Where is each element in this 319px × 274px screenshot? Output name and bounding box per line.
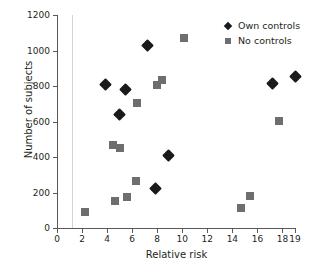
data-point bbox=[99, 78, 112, 91]
data-point bbox=[132, 177, 140, 185]
diamond-marker-icon bbox=[222, 23, 234, 29]
data-point bbox=[180, 34, 188, 42]
data-point bbox=[275, 117, 283, 125]
data-point bbox=[116, 144, 124, 152]
x-tick-label: 2 bbox=[72, 234, 92, 244]
x-tick-label: 4 bbox=[97, 234, 117, 244]
data-point bbox=[81, 208, 89, 216]
x-tick-label: 14 bbox=[222, 234, 242, 244]
data-point bbox=[133, 99, 141, 107]
y-tick-label: 1200 bbox=[16, 10, 50, 20]
data-point bbox=[162, 149, 175, 162]
data-point bbox=[289, 70, 302, 83]
x-tick bbox=[282, 229, 283, 233]
x-tick bbox=[82, 229, 83, 233]
x-tick-label: 12 bbox=[197, 234, 217, 244]
legend-label: No controls bbox=[238, 35, 292, 46]
x-tick bbox=[257, 229, 258, 233]
x-tick bbox=[232, 229, 233, 233]
x-tick bbox=[207, 229, 208, 233]
data-point bbox=[113, 108, 126, 121]
chart-legend: Own controls No controls bbox=[222, 19, 300, 49]
x-tick bbox=[157, 229, 158, 233]
data-point bbox=[141, 39, 154, 52]
y-tick-label: 0 bbox=[16, 223, 50, 233]
data-point bbox=[123, 193, 131, 201]
x-tick bbox=[57, 229, 58, 233]
x-tick bbox=[295, 229, 296, 233]
scatter-plot-figure: 020040060080010001200 02468101214161819 … bbox=[0, 0, 319, 274]
x-axis-line bbox=[57, 228, 296, 229]
data-point bbox=[158, 76, 166, 84]
x-axis-title: Relative risk bbox=[57, 249, 296, 260]
x-tick-label: 0 bbox=[47, 234, 67, 244]
data-point bbox=[120, 84, 133, 97]
x-tick bbox=[107, 229, 108, 233]
data-point bbox=[150, 182, 163, 195]
x-tick-label: 16 bbox=[247, 234, 267, 244]
legend-label: Own controls bbox=[238, 20, 300, 31]
x-tick-label: 6 bbox=[122, 234, 142, 244]
legend-item-no-controls: No controls bbox=[222, 34, 300, 47]
data-point bbox=[266, 77, 279, 90]
x-tick bbox=[132, 229, 133, 233]
y-axis-title: Number of subjects bbox=[23, 20, 34, 200]
data-point bbox=[246, 192, 254, 200]
x-tick bbox=[182, 229, 183, 233]
square-marker-icon bbox=[222, 38, 234, 44]
data-point bbox=[111, 197, 119, 205]
x-tick-label: 8 bbox=[147, 234, 167, 244]
x-tick-label: 10 bbox=[172, 234, 192, 244]
x-tick-label: 19 bbox=[285, 234, 305, 244]
legend-item-own-controls: Own controls bbox=[222, 19, 300, 32]
data-point bbox=[237, 204, 245, 212]
